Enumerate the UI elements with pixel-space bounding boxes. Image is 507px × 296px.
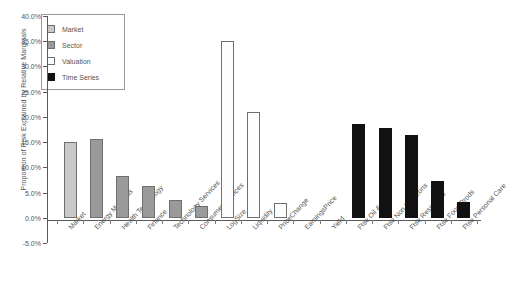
y-axis-tick-label: 20.0% bbox=[21, 113, 41, 120]
y-axis-tick-label: 5.0% bbox=[25, 189, 41, 196]
x-axis-tick bbox=[162, 220, 163, 224]
y-axis-tick-label: 0.0% bbox=[25, 214, 41, 221]
x-axis-tick bbox=[110, 220, 111, 224]
bar-liquidity bbox=[247, 112, 260, 218]
bar-health-technology bbox=[116, 176, 129, 218]
y-axis-tick bbox=[43, 66, 47, 67]
x-axis-tick bbox=[477, 220, 478, 224]
bar-logsize bbox=[221, 41, 234, 218]
x-axis-tick bbox=[346, 220, 347, 224]
y-axis-tick bbox=[43, 92, 47, 93]
x-axis-tick bbox=[320, 220, 321, 224]
bar-technology-services bbox=[169, 200, 182, 218]
x-axis-tick bbox=[136, 220, 137, 224]
y-axis-tick-label: -5.0% bbox=[23, 240, 41, 247]
bar-ftse-oil-gas bbox=[352, 124, 365, 217]
x-axis-tick bbox=[398, 220, 399, 224]
y-axis-tick bbox=[43, 193, 47, 194]
x-axis-tick bbox=[83, 220, 84, 224]
y-axis-tick-label: 10.0% bbox=[21, 164, 41, 171]
bar-market bbox=[64, 142, 77, 218]
x-axis-tick bbox=[215, 220, 216, 224]
y-axis-tick bbox=[43, 243, 47, 244]
bar-finance bbox=[142, 186, 155, 218]
x-axis-tick bbox=[372, 220, 373, 224]
x-axis-tick bbox=[188, 220, 189, 224]
plot-area: 40.0%35.0%30.0%25.0%20.0%15.0%10.0%5.0%0… bbox=[47, 16, 481, 243]
y-axis-tick bbox=[43, 218, 47, 219]
y-axis-line bbox=[47, 16, 48, 243]
y-axis-tick-label: 35.0% bbox=[21, 38, 41, 45]
bar-ftse-non-cyc-cons bbox=[379, 128, 392, 218]
y-axis-tick-label: 15.0% bbox=[21, 139, 41, 146]
x-axis-label-yield: Yield bbox=[330, 215, 346, 231]
x-axis-tick bbox=[425, 220, 426, 224]
x-axis-tick bbox=[241, 220, 242, 224]
bar-ftse-food-prods bbox=[431, 181, 444, 217]
y-axis-tick bbox=[43, 117, 47, 118]
y-axis-tick bbox=[43, 167, 47, 168]
bar-ftse-personal-care bbox=[457, 202, 470, 218]
x-axis-tick bbox=[267, 220, 268, 224]
bar-pricechange bbox=[274, 203, 287, 218]
x-axis-tick bbox=[57, 220, 58, 224]
bar-energy-materials bbox=[90, 139, 103, 218]
y-axis-tick bbox=[43, 142, 47, 143]
x-axis-tick bbox=[293, 220, 294, 224]
y-axis-tick-label: 30.0% bbox=[21, 63, 41, 70]
y-axis-tick bbox=[43, 16, 47, 17]
y-axis-tick-label: 25.0% bbox=[21, 88, 41, 95]
bar-ftse-resources bbox=[405, 135, 418, 218]
x-axis-tick bbox=[451, 220, 452, 224]
y-axis-tick-label: 40.0% bbox=[21, 13, 41, 20]
y-axis-tick bbox=[43, 41, 47, 42]
